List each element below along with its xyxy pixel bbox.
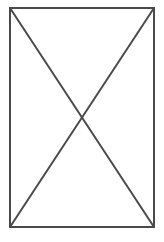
figure-canvas xyxy=(0,0,164,242)
rectangle-with-diagonals-svg xyxy=(0,0,164,242)
